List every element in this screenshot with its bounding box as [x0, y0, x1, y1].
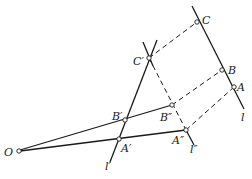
point-c-prime [147, 56, 151, 60]
point-o [17, 149, 21, 153]
label-l-dprime: l″ [190, 143, 199, 156]
label-b: B [227, 64, 236, 77]
point-a [232, 85, 236, 89]
dashed-c-to-c-prime [149, 22, 197, 58]
label-b-dprime: B″ [159, 111, 173, 124]
label-c-prime: C′ [133, 55, 144, 68]
dashed-a-to-a-dprime [186, 87, 234, 130]
point-b-dprime [170, 103, 174, 107]
point-b [220, 68, 224, 72]
label-c: C [202, 14, 211, 27]
point-a-dprime [184, 128, 188, 132]
label-a-prime: A′ [120, 142, 132, 155]
label-l: l [241, 111, 245, 124]
point-a-prime [117, 137, 121, 141]
point-c [195, 20, 199, 24]
point-b-prime [123, 118, 127, 122]
label-o: O [4, 146, 13, 159]
label-a-dprime: A″ [171, 134, 185, 147]
ray-o-to-a-dprime [20, 130, 186, 151]
ray-o-to-b-dprime [20, 105, 172, 150]
dashed-b-to-b-dprime [172, 70, 222, 105]
label-a: A [236, 81, 245, 94]
projection-diagram: O A B C A′ B′ C′ A″ B″ l l′ l″ [0, 0, 252, 179]
label-l-prime: l′ [105, 160, 112, 173]
label-b-prime: B′ [111, 110, 123, 123]
